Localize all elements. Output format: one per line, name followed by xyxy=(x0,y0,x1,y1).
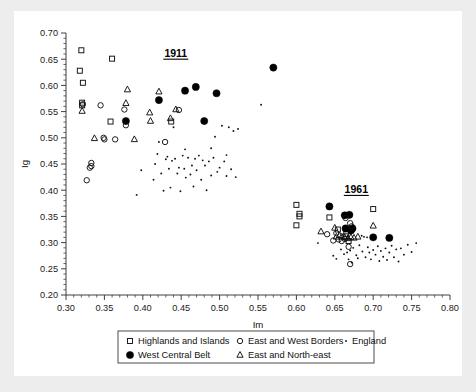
y-tick-label: 0.20 xyxy=(40,290,58,300)
series-highlands-and-islands xyxy=(77,48,375,244)
data-point xyxy=(213,157,215,159)
x-tick-label: 0.80 xyxy=(441,303,459,313)
data-point xyxy=(216,171,218,173)
data-point xyxy=(370,222,376,228)
y-tick-label: 0.35 xyxy=(40,212,58,222)
y-tick-label: 0.60 xyxy=(40,81,58,91)
y-tick-label: 0.70 xyxy=(40,28,58,38)
data-point xyxy=(351,262,353,264)
data-point xyxy=(169,187,171,189)
data-point xyxy=(370,258,372,260)
series-east-and-west-borders xyxy=(80,102,354,267)
data-point xyxy=(343,253,345,255)
data-point xyxy=(221,125,223,127)
data-point xyxy=(327,215,332,220)
data-point xyxy=(160,172,162,174)
data-point xyxy=(332,255,334,257)
data-point xyxy=(388,252,390,254)
x-tick-label: 0.40 xyxy=(134,303,152,313)
data-point xyxy=(80,80,85,85)
legend-marker-open-circle xyxy=(237,338,242,343)
y-tick-label: 0.65 xyxy=(40,55,58,65)
data-point xyxy=(382,256,384,258)
data-point xyxy=(140,169,142,171)
data-point xyxy=(165,158,167,160)
data-point xyxy=(411,251,413,253)
data-point xyxy=(147,118,153,124)
data-point xyxy=(377,245,379,247)
legend-item[interactable]: England xyxy=(345,336,386,346)
data-point xyxy=(136,194,138,196)
plot-layer: 0.300.350.400.450.500.550.600.650.700.75… xyxy=(19,28,459,363)
y-tick-label: 0.55 xyxy=(40,107,58,117)
data-point xyxy=(173,106,179,112)
data-point xyxy=(168,168,170,170)
legend-marker-filled-circle xyxy=(126,351,133,358)
data-point xyxy=(367,246,369,248)
data-point xyxy=(349,250,351,252)
data-point xyxy=(237,128,239,130)
data-point xyxy=(375,254,377,256)
data-point xyxy=(235,176,237,178)
data-point xyxy=(208,160,210,162)
legend-marker-open-triangle xyxy=(237,352,243,358)
data-point xyxy=(156,153,158,155)
legend-label: England xyxy=(352,336,386,346)
data-point xyxy=(176,172,178,174)
x-tick-label: 0.75 xyxy=(403,303,421,313)
data-point xyxy=(91,135,97,141)
legend-label: West Central Belt xyxy=(138,350,211,360)
data-point xyxy=(326,203,333,210)
legend-item[interactable]: Highlands and Islands xyxy=(128,336,230,346)
data-point xyxy=(260,104,262,106)
data-point xyxy=(340,248,342,250)
data-point xyxy=(270,64,277,71)
data-point xyxy=(79,48,84,53)
data-point xyxy=(147,109,153,115)
data-point xyxy=(365,256,367,258)
data-point xyxy=(174,158,176,160)
legend-item[interactable]: East and West Borders xyxy=(237,336,343,346)
data-point xyxy=(87,165,92,170)
data-point xyxy=(355,233,361,239)
data-point xyxy=(391,245,393,247)
data-point xyxy=(124,86,130,92)
data-point xyxy=(123,100,129,106)
x-tick-label: 0.60 xyxy=(287,303,305,313)
x-tick-label: 0.35 xyxy=(95,303,113,313)
legend-marker-open-square xyxy=(128,339,133,344)
legend-item[interactable]: West Central Belt xyxy=(126,350,210,360)
data-point xyxy=(179,190,181,192)
data-point xyxy=(228,126,230,128)
legend-label: East and North-east xyxy=(248,350,331,360)
data-point xyxy=(230,168,232,170)
data-point xyxy=(358,244,360,246)
data-point xyxy=(361,235,363,237)
era-annotation: 1961 xyxy=(345,183,369,195)
data-point xyxy=(357,257,359,259)
data-point xyxy=(403,254,405,256)
data-point xyxy=(210,175,212,177)
data-point xyxy=(189,174,191,176)
data-point xyxy=(178,167,180,169)
data-point xyxy=(214,136,216,138)
data-point xyxy=(171,160,173,162)
chart-canvas: 0.300.350.400.450.500.550.600.650.700.75… xyxy=(14,11,462,376)
data-point xyxy=(77,68,82,73)
data-point xyxy=(206,189,208,191)
data-point xyxy=(191,165,193,167)
data-point xyxy=(385,247,387,249)
data-point xyxy=(156,88,162,94)
data-point xyxy=(79,108,85,114)
data-point xyxy=(184,148,186,150)
legend-item[interactable]: East and North-east xyxy=(237,350,331,360)
data-point xyxy=(193,186,195,188)
data-point xyxy=(182,155,184,157)
data-point xyxy=(386,234,393,241)
legend-marker-small-dot xyxy=(345,340,347,342)
data-point xyxy=(363,236,365,238)
data-point xyxy=(154,163,156,165)
data-point xyxy=(198,155,200,157)
data-point xyxy=(372,249,374,251)
y-tick-label: 0.25 xyxy=(40,264,58,274)
